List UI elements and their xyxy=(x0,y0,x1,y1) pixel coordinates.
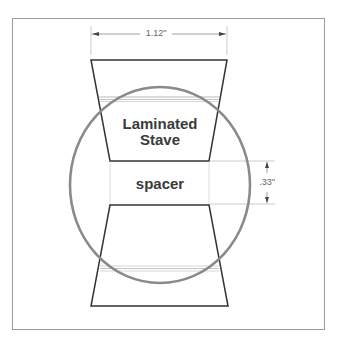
arrow-left-icon xyxy=(92,32,99,36)
stave-label-line2: Stave xyxy=(110,131,210,148)
stave-label-line1: Laminated xyxy=(110,115,210,132)
height-dimension-label: .33" xyxy=(253,177,281,187)
arrow-right-icon xyxy=(219,32,226,36)
stave-diagram xyxy=(0,0,339,341)
bottom-stave xyxy=(91,205,228,306)
arrow-up-icon xyxy=(265,162,269,168)
arrow-down-icon xyxy=(265,197,269,203)
width-dimension-label: 1.12" xyxy=(140,28,172,38)
spacer-label: spacer xyxy=(110,175,210,192)
